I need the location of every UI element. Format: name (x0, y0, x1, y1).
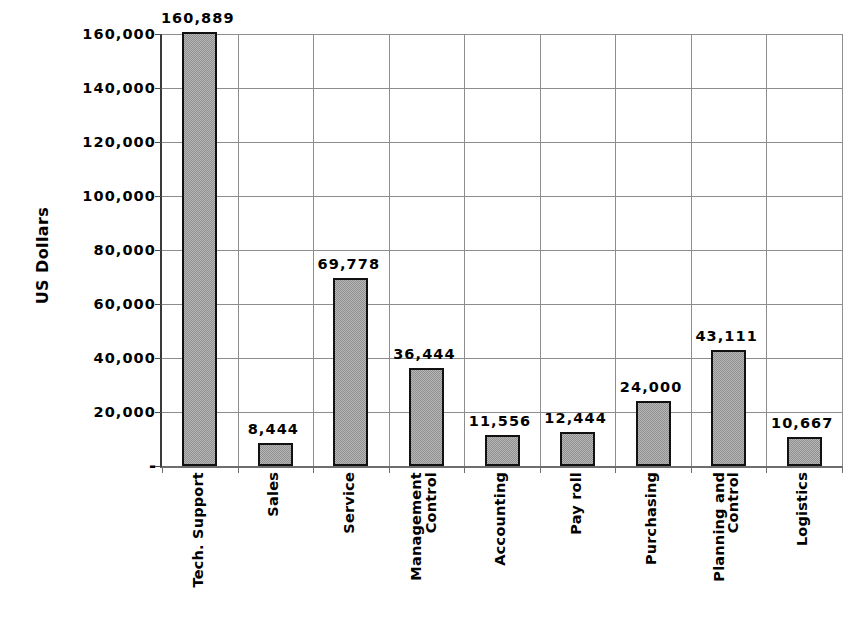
bar-value-label: 12,444 (544, 410, 607, 426)
y-axis-tick-label: - (44, 456, 156, 476)
gridline-vertical (389, 34, 390, 466)
x-axis-category-label: ManagementControl (410, 472, 440, 581)
x-axis-category-label-line: Management (410, 472, 425, 581)
gridline-vertical (615, 34, 616, 466)
x-axis-category-label: Logistics (795, 472, 810, 546)
y-axis-tick-label: 60,000 (44, 296, 156, 312)
gridline-vertical (766, 34, 767, 466)
x-axis-category-labels: Tech. SupportSalesServiceManagementContr… (160, 472, 840, 634)
gridline-vertical (540, 34, 541, 466)
y-axis-tick-mark (155, 196, 162, 197)
x-axis-category-label-line: Purchasing (644, 472, 659, 565)
x-axis-category-label: Tech. Support (190, 472, 205, 587)
gridline-vertical (313, 34, 314, 466)
y-axis-tick-mark (155, 358, 162, 359)
bar (258, 443, 293, 466)
x-axis-category-label: Service (341, 472, 356, 534)
bar-chart: US Dollars -20,00040,00060,00080,000100,… (0, 0, 858, 634)
bar-value-label: 10,667 (771, 415, 834, 431)
bar-value-label: 69,778 (318, 256, 381, 272)
y-axis-tick-label: 160,000 (44, 26, 156, 42)
bar (711, 350, 746, 466)
gridline-horizontal (162, 196, 842, 197)
x-axis-category-label: Sales (266, 472, 281, 517)
bar-value-label: 160,889 (161, 10, 235, 26)
bar (333, 278, 368, 466)
y-axis-tick-label: 80,000 (44, 242, 156, 258)
x-axis-category-label: Planning andControl (712, 472, 742, 582)
y-axis-tick-mark (155, 88, 162, 89)
bar (636, 401, 671, 466)
gridline-horizontal (162, 88, 842, 89)
gridline-vertical (691, 34, 692, 466)
x-axis-category-label-line: Control (727, 472, 742, 533)
gridline-horizontal (162, 250, 842, 251)
y-axis-tick-label: 40,000 (44, 350, 156, 366)
gridline-horizontal (162, 34, 842, 35)
x-axis-category-label: Accounting (493, 472, 508, 566)
y-axis-tick-label: 20,000 (44, 404, 156, 420)
y-axis-tick-label: 140,000 (44, 80, 156, 96)
bar-value-label: 8,444 (248, 421, 299, 437)
gridline-vertical (464, 34, 465, 466)
x-axis-category-label: Pay roll (568, 472, 583, 535)
y-axis-tick-label: 100,000 (44, 188, 156, 204)
bar-value-label: 43,111 (695, 328, 758, 344)
bar (787, 437, 822, 466)
x-axis-category-label-line: Service (341, 472, 356, 534)
bar-value-label: 36,444 (393, 346, 456, 362)
x-axis-category-label-line: Control (424, 472, 439, 533)
y-axis-tick-mark (155, 466, 162, 467)
x-axis-category-label-line: Tech. Support (190, 472, 205, 587)
bar (409, 368, 444, 466)
bar (560, 432, 595, 466)
x-axis-category-label-line: Logistics (795, 472, 810, 546)
x-axis-tick-mark (842, 466, 843, 473)
y-axis-tick-mark (155, 412, 162, 413)
y-axis-tick-label: 120,000 (44, 134, 156, 150)
gridline-horizontal (162, 304, 842, 305)
y-axis-tick-mark (155, 304, 162, 305)
x-axis-category-label-line: Pay roll (568, 472, 583, 535)
y-axis-tick-mark (155, 34, 162, 35)
plot-area (160, 34, 842, 468)
y-axis-tick-mark (155, 142, 162, 143)
bar (182, 32, 217, 466)
y-axis-tick-labels: -20,00040,00060,00080,000100,000120,0001… (44, 0, 156, 634)
gridline-vertical (238, 34, 239, 466)
x-axis-category-label-line: Sales (266, 472, 281, 517)
bar (485, 435, 520, 466)
x-axis-category-label-line: Accounting (493, 472, 508, 566)
x-axis-category-label: Purchasing (644, 472, 659, 565)
bar-value-label: 24,000 (620, 379, 683, 395)
y-axis-tick-mark (155, 250, 162, 251)
bar-value-label: 11,556 (469, 413, 532, 429)
plot-frame-right-edge (842, 34, 843, 466)
gridline-horizontal (162, 142, 842, 143)
